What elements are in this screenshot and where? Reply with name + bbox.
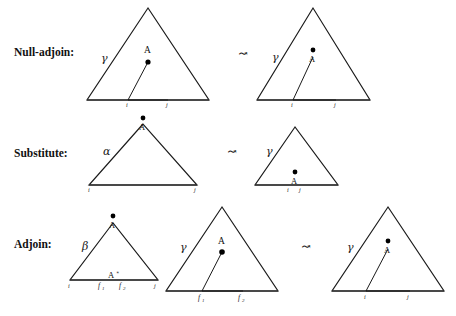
span-label-i: i <box>287 186 289 193</box>
node-label-A: A <box>139 122 146 132</box>
row-adjoin: Adjoin: β A A ∗ i f 1 f 2 j γ <box>14 207 444 303</box>
span-label-j: j <box>165 101 168 108</box>
outer-label-gamma: γ <box>180 241 187 254</box>
diagram-adjoin-auxiliary: β A A ∗ i f 1 f 2 j <box>68 214 158 291</box>
span-label-f1: f 1 <box>98 281 105 291</box>
squiggly-arrow-icon: ↝ <box>301 240 310 253</box>
svg-text:1: 1 <box>202 298 205 303</box>
row-null-adjoin: Null-adjoin: γ A i j ↝ γ A i j <box>14 8 370 108</box>
node-dot <box>141 116 146 121</box>
inner-triangle <box>202 252 243 291</box>
node-label-A: A <box>144 45 151 55</box>
svg-text:1: 1 <box>102 286 105 291</box>
squiggly-arrow-icon: ↝ <box>227 145 236 158</box>
span-label-f2: f 2 <box>119 281 126 291</box>
svg-text:f: f <box>238 293 241 302</box>
diagram-adjoin-target: γ A f 1 f 2 <box>166 207 278 303</box>
span-label-j: j <box>298 186 301 193</box>
svg-text:f: f <box>198 293 201 302</box>
node-dot <box>293 170 298 175</box>
svg-text:2: 2 <box>242 298 245 303</box>
span-label-i: i <box>126 101 128 108</box>
diagram-substitute-after: γ A i j <box>255 127 338 193</box>
inner-triangle <box>128 62 168 100</box>
span-label-j: j <box>333 101 336 108</box>
span-label-f1: f 1 <box>198 293 205 303</box>
node-dot <box>145 59 150 64</box>
span-label-i: i <box>291 101 293 108</box>
span-label-i: i <box>88 186 90 193</box>
outer-label-gamma: γ <box>272 51 279 64</box>
span-label-j: j <box>153 282 156 289</box>
diagram-null-adjoin-after: γ A i j <box>257 8 370 108</box>
node-dot <box>219 249 225 255</box>
squiggly-arrow-icon: ↝ <box>238 47 247 60</box>
svg-text:f: f <box>98 281 101 290</box>
node-label-A: A <box>309 54 316 64</box>
span-label-i: i <box>68 282 70 289</box>
row-label-substitute: Substitute: <box>14 147 68 159</box>
node-dot <box>111 214 116 219</box>
row-label-null-adjoin: Null-adjoin: <box>14 46 74 59</box>
node-label-A: A <box>291 176 298 186</box>
svg-text:2: 2 <box>123 286 126 291</box>
node-dot <box>311 48 316 53</box>
span-label-j: j <box>406 293 409 300</box>
row-substitute: Substitute: α A i j ↝ γ A i j <box>14 116 338 193</box>
outer-label-beta: β <box>81 240 88 253</box>
node-label-A: A <box>384 245 391 255</box>
inner-triangle <box>366 249 410 291</box>
outer-label-alpha: α <box>103 145 111 158</box>
node-label-A: A <box>218 236 225 246</box>
outer-label-gamma: γ <box>101 52 108 65</box>
span-label-f2: f 2 <box>238 293 245 303</box>
node-label-A: A <box>109 220 116 230</box>
tag-operations-figure: Null-adjoin: γ A i j ↝ γ A i j Substitu <box>0 0 456 316</box>
outer-label-gamma: γ <box>347 241 354 254</box>
foot-node-label-A: A <box>108 270 115 280</box>
foot-node-star: ∗ <box>116 270 119 275</box>
row-label-adjoin: Adjoin: <box>14 238 52 251</box>
svg-text:f: f <box>119 281 122 290</box>
span-label-i: i <box>364 293 366 300</box>
diagram-null-adjoin-before: γ A i j <box>87 8 209 108</box>
diagram-adjoin-result: γ A i j <box>332 207 444 300</box>
outer-label-gamma: γ <box>266 145 273 158</box>
span-label-j: j <box>193 186 196 193</box>
diagram-substitute-before: α A i j <box>88 116 197 193</box>
node-dot <box>386 239 391 244</box>
